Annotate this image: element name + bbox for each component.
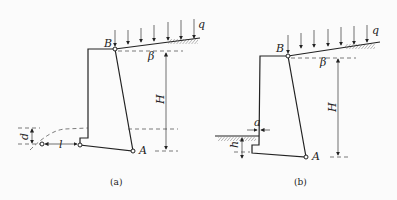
label-beta: β xyxy=(319,56,326,69)
ground-hatch xyxy=(168,39,198,44)
label-q: q xyxy=(372,24,379,37)
point-b xyxy=(286,54,290,58)
panel-b: B A β q H h a (b) xyxy=(215,24,380,187)
label-l: l xyxy=(59,138,63,151)
toe-point xyxy=(78,143,82,147)
label-beta: β xyxy=(147,50,154,63)
label-b: B xyxy=(275,42,284,55)
caption-b: (b) xyxy=(294,177,307,187)
wall-outline xyxy=(252,56,306,157)
label-h-lower: h xyxy=(228,141,241,148)
label-a: A xyxy=(138,144,147,157)
label-d: d xyxy=(18,133,31,140)
label-a-dim: a xyxy=(254,116,261,129)
ground-hatch xyxy=(345,44,375,49)
label-q: q xyxy=(198,18,205,31)
label-h-upper: H xyxy=(326,102,339,113)
slope-point xyxy=(40,142,44,146)
label-b: B xyxy=(103,37,112,50)
panel-a: B A β q H d l (a) xyxy=(18,18,205,187)
wall-outline xyxy=(80,49,133,151)
label-a: A xyxy=(311,150,320,163)
point-a xyxy=(131,149,135,153)
point-a xyxy=(304,155,308,159)
caption-a: (a) xyxy=(110,177,122,187)
label-h: H xyxy=(154,94,167,105)
front-ground-hatch xyxy=(218,137,256,141)
point-b xyxy=(113,47,117,51)
retaining-wall-diagram: B A β q H d l (a) xyxy=(0,0,397,200)
